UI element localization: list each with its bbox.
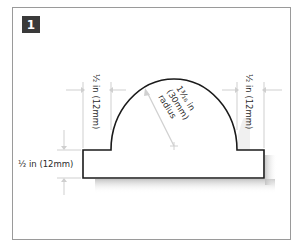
right-step-width-label: ½ in (12mm) [244,74,254,129]
left-step-width-label: ½ in (12mm) [91,74,101,129]
profile-diagram: ½ in (12mm) ½ in (12mm) ½ in (12mm) 1³⁄₁… [0,0,305,250]
base-height-label: ½ in (12mm) [18,159,73,169]
